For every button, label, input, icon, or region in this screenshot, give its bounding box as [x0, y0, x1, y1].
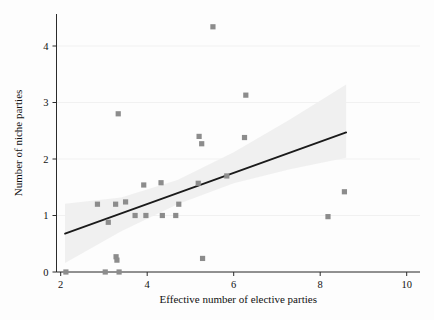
data-point [200, 256, 205, 261]
data-point [116, 269, 121, 274]
data-point [224, 173, 229, 178]
regression-line [65, 132, 346, 233]
x-axis: 246810 [57, 272, 421, 290]
data-point [123, 199, 128, 204]
data-point [242, 135, 247, 140]
data-point [243, 93, 248, 98]
data-point [141, 182, 146, 187]
data-point [103, 269, 108, 274]
x-tick-label-10: 10 [401, 279, 412, 290]
x-tick-label-4: 4 [145, 279, 151, 290]
y-tick-label-3: 3 [43, 97, 48, 108]
x-tick-label-6: 6 [231, 279, 236, 290]
data-point [325, 214, 330, 219]
chart-canvas: 01234 246810 Effective number of electiv… [0, 0, 434, 320]
data-point [342, 189, 347, 194]
data-point [199, 141, 204, 146]
data-point [160, 213, 165, 218]
data-point [197, 134, 202, 139]
y-tick-label-2: 2 [43, 154, 48, 165]
data-point [210, 24, 215, 29]
x-tick-label-2: 2 [58, 279, 63, 290]
data-point [176, 202, 181, 207]
data-point [95, 202, 100, 207]
data-point [196, 181, 201, 186]
data-point [113, 202, 118, 207]
x-axis-title: Effective number of elective parties [160, 293, 317, 305]
data-point [158, 180, 163, 185]
data-point [143, 213, 148, 218]
y-axis: 01234 [43, 14, 56, 278]
data-point [63, 269, 68, 274]
data-point [116, 111, 121, 116]
confidence-band [65, 84, 346, 263]
linear-fit-line [65, 132, 346, 233]
y-tick-label-1: 1 [43, 210, 48, 221]
scatter-plot-figure: 01234 246810 Effective number of electiv… [0, 0, 434, 320]
confidence-interval-band [65, 84, 346, 263]
data-point [114, 258, 119, 263]
y-tick-label-0: 0 [43, 267, 48, 278]
data-point [173, 213, 178, 218]
data-point [132, 213, 137, 218]
y-tick-label-4: 4 [43, 41, 49, 52]
y-axis-title: Number of niche parties [12, 90, 24, 197]
x-tick-label-8: 8 [318, 279, 323, 290]
data-point [106, 220, 111, 225]
